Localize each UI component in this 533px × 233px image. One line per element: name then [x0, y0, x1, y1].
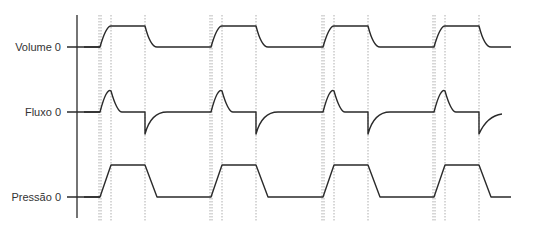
pressure-waveform	[84, 165, 511, 197]
signal-flow: Fluxo 0	[25, 90, 502, 134]
flow-label: Fluxo 0	[25, 106, 61, 118]
flow-waveform	[84, 90, 502, 134]
ventilation-waveform-diagram: Volume 0 Fluxo 0 Pressão 0	[0, 0, 533, 233]
volume-label: Volume 0	[15, 41, 61, 53]
pressure-label: Pressão 0	[11, 191, 61, 203]
signal-volume: Volume 0	[15, 26, 511, 53]
signal-pressure: Pressão 0	[11, 165, 511, 203]
volume-waveform	[84, 26, 511, 47]
cycle-guide-lines	[99, 15, 479, 221]
